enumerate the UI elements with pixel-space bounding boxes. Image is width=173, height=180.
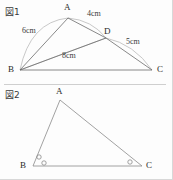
- vertex-label-a-fig1: A: [64, 2, 71, 12]
- vertex-label-a-fig2: A: [56, 86, 63, 96]
- figure-1: 図1 A B C D 6cm 4cm 5cm 8cm: [0, 0, 173, 86]
- measure-label-4cm: 4cm: [87, 9, 101, 18]
- measure-label-5cm: 5cm: [126, 37, 140, 46]
- figure-2: 図2 A B C: [0, 86, 173, 180]
- vertex-label-d-fig1: D: [104, 26, 111, 36]
- geometry-figure-page: 図1 A B C D 6cm 4cm 5cm 8cm 図2 A B C: [0, 0, 173, 180]
- vertex-label-b-fig2: B: [20, 160, 26, 170]
- measure-label-6cm: 6cm: [22, 26, 36, 35]
- segment-a-d: [68, 18, 106, 38]
- vertex-label-c-fig2: C: [146, 160, 152, 170]
- vertex-label-b-fig1: B: [8, 64, 14, 74]
- figure-1-caption: 図1: [5, 5, 20, 18]
- figure-2-caption: 図2: [5, 88, 20, 101]
- vertex-label-c-fig1: C: [157, 64, 163, 74]
- angle-mark-b-2: [42, 161, 46, 165]
- angle-mark-b-1: [37, 155, 41, 159]
- measure-label-8cm: 8cm: [62, 51, 76, 60]
- segment-a-c-fig2: [60, 100, 142, 166]
- angle-mark-c-1: [128, 160, 132, 164]
